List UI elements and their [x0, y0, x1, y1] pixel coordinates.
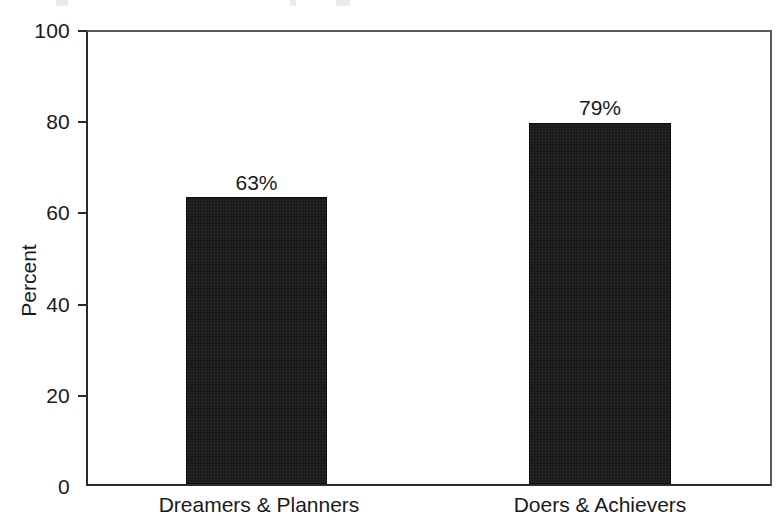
x-category-label-dreamers-and-planners: Dreamers & Planners: [136, 494, 382, 516]
y-tick-label-text: 80: [10, 111, 70, 132]
y-axis-title: Percent: [18, 231, 39, 331]
top-edge-scan-artifact: [56, 0, 68, 6]
y-tick-label-100: 100: [0, 20, 70, 41]
y-tick-label-40: 40: [0, 294, 70, 315]
bar-value-label-dreamers-and-planners: 63%: [186, 172, 327, 193]
y-tick-label-80: 80: [0, 111, 70, 132]
top-edge-scan-artifact: [290, 0, 296, 6]
bar-doers-and-achievers: [529, 123, 671, 484]
y-tick-label-60: 60: [0, 202, 70, 223]
bar-chart: Percent 100 80 60 40 20 0 63% 79% Dreame…: [0, 0, 781, 530]
y-tick-label-text: 0: [10, 476, 70, 497]
bar-dreamers-and-planners: [186, 197, 327, 484]
y-tick-label-text: 60: [10, 202, 70, 223]
y-tick-label-text: 40: [10, 294, 70, 315]
top-edge-scan-artifact: [336, 0, 350, 6]
y-tick-label-text: 20: [10, 385, 70, 406]
x-category-label-doers-and-achievers: Doers & Achievers: [487, 494, 713, 516]
y-tick-label-20: 20: [0, 385, 70, 406]
y-tick-label-0: 0: [0, 476, 70, 497]
y-tick-label-text: 100: [10, 20, 70, 41]
bar-value-label-doers-and-achievers: 79%: [529, 97, 671, 118]
